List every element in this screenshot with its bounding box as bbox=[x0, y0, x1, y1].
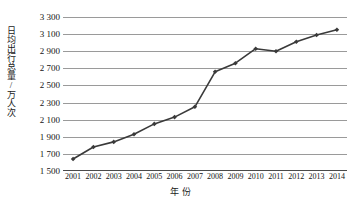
x-axis-title-text: 年 份 bbox=[164, 187, 196, 197]
y-axis-tick-label: 3 100 bbox=[40, 29, 60, 39]
y-axis-tick-label: 2 900 bbox=[40, 46, 60, 56]
data-point-marker bbox=[314, 33, 319, 38]
plot-area bbox=[63, 17, 347, 171]
x-axis-tick-label: 2012 bbox=[288, 172, 304, 181]
x-axis-tick-label: 2011 bbox=[268, 172, 284, 181]
x-axis-tick-label: 2004 bbox=[126, 172, 142, 181]
x-axis-tick-label: 2009 bbox=[227, 172, 243, 181]
y-axis-tick-labels: 3 3003 1002 9002 7002 5002 3002 1001 900… bbox=[16, 0, 62, 204]
y-axis-tick-label: 2 700 bbox=[40, 63, 60, 73]
x-axis-tick-label: 2002 bbox=[85, 172, 101, 181]
y-axis-tick-label: 2 100 bbox=[40, 115, 60, 125]
x-axis-tick-label: 2005 bbox=[146, 172, 162, 181]
y-axis-tick-label: 2 500 bbox=[40, 80, 60, 90]
y-axis-title: 日均出行总量/万人次 bbox=[2, 26, 16, 117]
data-point-marker bbox=[335, 28, 340, 33]
line-chart: 日均出行总量/万人次 3 3003 1002 9002 7002 5002 30… bbox=[0, 0, 361, 204]
x-axis-tick-label: 2001 bbox=[65, 172, 81, 181]
x-axis-tick-label: 2006 bbox=[167, 172, 183, 181]
x-axis-tick-label: 2003 bbox=[106, 172, 122, 181]
y-axis-tick-label: 3 300 bbox=[40, 12, 60, 22]
x-axis-tick-label: 2007 bbox=[187, 172, 203, 181]
data-series-line bbox=[63, 17, 347, 171]
y-axis-tick-label: 2 300 bbox=[40, 98, 60, 108]
x-axis-tick-label: 2010 bbox=[248, 172, 264, 181]
x-axis-tick-label: 2014 bbox=[329, 172, 345, 181]
y-axis-tick-label: 1 700 bbox=[40, 149, 60, 159]
x-axis-title: 年 份 bbox=[0, 185, 361, 198]
data-point-marker bbox=[111, 140, 116, 145]
series-polyline bbox=[73, 30, 337, 159]
y-axis-tick-label: 1 500 bbox=[40, 166, 60, 176]
x-axis-tick-labels: 2001200220032004200520062007200820092010… bbox=[63, 172, 347, 186]
y-axis-tick-label: 1 900 bbox=[40, 132, 60, 142]
x-axis-tick-label: 2013 bbox=[309, 172, 325, 181]
x-axis-tick-label: 2008 bbox=[207, 172, 223, 181]
